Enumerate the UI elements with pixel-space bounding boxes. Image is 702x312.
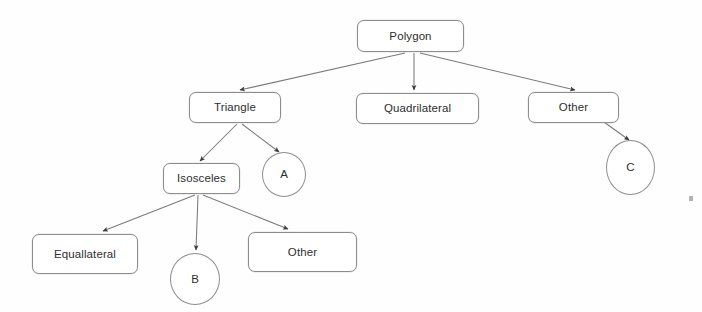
edge-isosceles-to-b xyxy=(196,195,198,250)
node-equallateral[interactable]: Equallateral xyxy=(32,234,138,274)
node-circle-c[interactable]: C xyxy=(606,140,655,195)
node-label-quadrilateral: Quadrilateral xyxy=(384,102,451,115)
artifact-scan-speck xyxy=(689,196,693,201)
node-label-other-bottom: Other xyxy=(288,246,317,259)
node-label-equallateral: Equallateral xyxy=(54,248,116,261)
node-other-top[interactable]: Other xyxy=(528,92,619,123)
node-triangle[interactable]: Triangle xyxy=(189,92,281,123)
edge-isosceles-to-other xyxy=(203,195,288,229)
edge-polygon-to-other xyxy=(420,53,575,90)
node-circle-b[interactable]: B xyxy=(170,253,220,305)
node-label-polygon: Polygon xyxy=(389,30,431,43)
node-polygon[interactable]: Polygon xyxy=(357,20,464,52)
node-label-circle-c: C xyxy=(626,161,634,174)
edge-isosceles-to-equallateral xyxy=(103,195,195,231)
node-label-circle-b: B xyxy=(191,273,199,286)
polygon-hierarchy-diagram: PolygonTriangleQuadrilateralOtherIsoscel… xyxy=(0,0,702,312)
node-label-triangle: Triangle xyxy=(214,101,256,114)
node-label-circle-a: A xyxy=(280,168,288,181)
node-label-isosceles: Isosceles xyxy=(177,172,226,185)
node-quadrilateral[interactable]: Quadrilateral xyxy=(356,93,479,124)
edge-triangle-to-isosceles xyxy=(200,124,237,161)
edge-polygon-to-triangle xyxy=(240,53,405,90)
edge-triangle-to-a xyxy=(242,124,279,152)
node-label-other-top: Other xyxy=(559,101,588,114)
node-other-bottom[interactable]: Other xyxy=(248,232,357,272)
node-circle-a[interactable]: A xyxy=(262,152,306,197)
node-isosceles[interactable]: Isosceles xyxy=(163,163,240,194)
